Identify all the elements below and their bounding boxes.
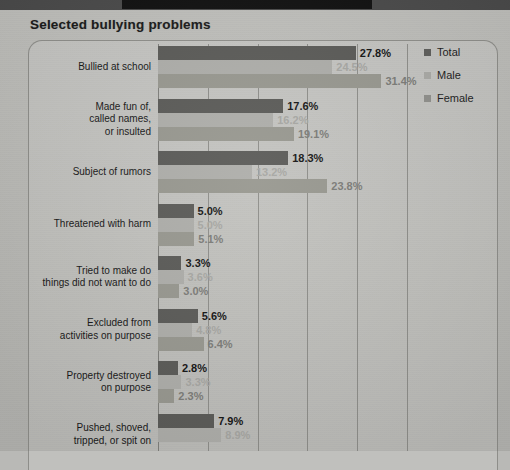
bar-rect-male (158, 165, 252, 179)
bar-value-label: 2.8% (182, 362, 207, 374)
bar-rect-female (158, 284, 179, 298)
bar-total[interactable]: 5.0% (158, 204, 223, 218)
bar-male[interactable]: 13.2% (158, 165, 363, 179)
bar-rect-total (158, 414, 214, 428)
bar-female[interactable] (158, 442, 250, 456)
bar-male[interactable]: 4.8% (158, 323, 233, 337)
bar-female[interactable]: 31.4% (158, 74, 417, 88)
category-label: Bullied at school (1, 61, 151, 74)
bar-rect-total (158, 309, 198, 323)
bar-female[interactable]: 19.1% (158, 127, 329, 141)
bar-stack: 18.3%13.2%23.8% (158, 151, 363, 193)
bar-stack: 3.3%3.6%3.0% (158, 256, 213, 298)
bar-male[interactable]: 16.2% (158, 113, 329, 127)
legend-swatch-icon (424, 49, 431, 56)
category-label: Excluded fromactivities on purpose (1, 317, 151, 342)
banner-dark-strip (122, 0, 372, 9)
legend-item-label: Total (437, 46, 460, 58)
bar-female[interactable]: 2.3% (158, 389, 211, 403)
bar-rect-total (158, 151, 288, 165)
bar-total[interactable]: 18.3% (158, 151, 363, 165)
bar-value-label: 5.6% (202, 310, 227, 322)
bar-rect-female (158, 389, 174, 403)
page-title: Selected bullying problems (30, 17, 211, 32)
bar-value-label: 5.1% (198, 233, 223, 245)
category-label: Pushed, shoved,tripped, or spit on (1, 422, 151, 447)
bar-value-label: 17.6% (287, 100, 318, 112)
bar-value-label: 4.8% (196, 324, 221, 336)
bar-male[interactable]: 24.5% (158, 60, 417, 74)
legend-item-female[interactable]: Female (424, 92, 474, 104)
bar-value-label: 6.4% (208, 338, 233, 350)
bar-stack: 27.8%24.5%31.4% (158, 46, 417, 88)
category-label: Tried to make dothings did not want to d… (1, 265, 151, 290)
bar-rect-male (158, 113, 273, 127)
bar-value-label: 19.1% (298, 128, 329, 140)
bar-value-label: 31.4% (385, 75, 416, 87)
category-label: Threatened with harm (1, 218, 151, 231)
bar-rect-male (158, 323, 192, 337)
bar-value-label: 5.0% (198, 205, 223, 217)
bar-value-label: 3.0% (183, 285, 208, 297)
bar-stack: 17.6%16.2%19.1% (158, 99, 329, 141)
bar-stack: 2.8%3.3%2.3% (158, 361, 211, 403)
gridline-35 (407, 44, 408, 451)
bar-value-label: 18.3% (292, 152, 323, 164)
bar-rect-total (158, 361, 178, 375)
bar-stack: 7.9%8.9% (158, 414, 250, 456)
bar-rect-male (158, 270, 184, 284)
bar-rect-male (158, 375, 181, 389)
bar-rect-total (158, 46, 356, 60)
category-label: Property destroyedon purpose (1, 370, 151, 395)
bar-value-label: 16.2% (277, 114, 308, 126)
bar-total[interactable]: 5.6% (158, 309, 233, 323)
bar-rect-female (158, 232, 194, 246)
bar-value-label: 2.3% (178, 390, 203, 402)
legend-item-label: Male (437, 69, 461, 81)
bar-rect-total (158, 99, 283, 113)
bar-male[interactable]: 3.6% (158, 270, 213, 284)
bar-value-label: 5.0% (198, 219, 223, 231)
category-label: Subject of rumors (1, 166, 151, 179)
bar-female[interactable]: 6.4% (158, 337, 233, 351)
bar-value-label: 3.3% (185, 376, 210, 388)
bar-total[interactable]: 3.3% (158, 256, 213, 270)
bar-value-label: 7.9% (218, 415, 243, 427)
bar-rect-female (158, 337, 204, 351)
bar-male[interactable]: 8.9% (158, 428, 250, 442)
bar-rect-male (158, 60, 332, 74)
chart-legend: TotalMaleFemale (424, 46, 474, 104)
bar-female[interactable]: 3.0% (158, 284, 213, 298)
bar-value-label: 24.5% (336, 61, 367, 73)
bar-stack: 5.6%4.8%6.4% (158, 309, 233, 351)
bar-value-label: 8.9% (225, 429, 250, 441)
legend-swatch-icon (424, 95, 431, 102)
page-top-banner (0, 0, 510, 10)
legend-item-male[interactable]: Male (424, 69, 474, 81)
bar-rect-total (158, 256, 181, 270)
bar-rect-female (158, 74, 381, 88)
legend-item-total[interactable]: Total (424, 46, 474, 58)
bar-rect-female (158, 179, 327, 193)
legend-swatch-icon (424, 72, 431, 79)
bar-value-label: 13.2% (256, 166, 287, 178)
bar-rect-female (158, 127, 294, 141)
bar-value-label: 3.3% (185, 257, 210, 269)
bar-female[interactable]: 23.8% (158, 179, 363, 193)
bar-value-label: 27.8% (360, 47, 391, 59)
bar-total[interactable]: 17.6% (158, 99, 329, 113)
gridline-28 (357, 44, 358, 451)
bar-rect-male (158, 428, 221, 442)
legend-item-label: Female (437, 92, 474, 104)
bar-rect-male (158, 218, 194, 232)
bar-total[interactable]: 7.9% (158, 414, 250, 428)
bar-total[interactable]: 2.8% (158, 361, 211, 375)
bar-male[interactable]: 5.0% (158, 218, 223, 232)
category-label: Made fun of,called names,or insulted (1, 101, 151, 139)
bar-total[interactable]: 27.8% (158, 46, 417, 60)
bar-stack: 5.0%5.0%5.1% (158, 204, 223, 246)
bar-female[interactable]: 5.1% (158, 232, 223, 246)
bar-male[interactable]: 3.3% (158, 375, 211, 389)
bar-value-label: 3.6% (188, 271, 213, 283)
